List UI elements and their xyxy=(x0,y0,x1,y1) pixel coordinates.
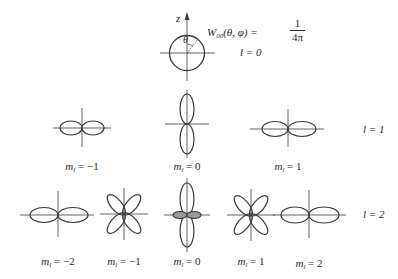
orbital-l2-m-1 xyxy=(100,188,148,240)
orbital-l2-m1 xyxy=(227,189,275,241)
formula-args: (θ, φ) = xyxy=(223,26,258,38)
formula-symbol: W xyxy=(207,26,216,38)
m-label-l2-m1: ml = 1 xyxy=(237,255,264,269)
orbital-l2-m2 xyxy=(273,190,346,238)
z-axis-arrow-icon xyxy=(185,12,190,20)
orbital-l1-m0 xyxy=(165,90,209,158)
l2-label: l = 2 xyxy=(363,208,384,220)
m-label-l2-m0: ml = 0 xyxy=(173,255,200,269)
fraction-numerator: 1 xyxy=(295,18,301,29)
l0-label: l = 0 xyxy=(240,46,261,58)
orbital-diagram xyxy=(0,0,398,279)
formula-fraction: 1 4π xyxy=(290,18,305,43)
m-label-l1-m1: ml = 1 xyxy=(274,160,301,174)
z-axis-label: z xyxy=(176,12,180,24)
m-label-l2-m-2: ml = −2 xyxy=(41,255,74,269)
fraction-denominator: 4π xyxy=(292,32,303,43)
orbital-l2-m0 xyxy=(164,178,210,252)
m-label-l1-m-1: ml = −1 xyxy=(65,160,98,174)
formula-w00: W00(θ, φ) = xyxy=(207,26,258,40)
theta-label: θ xyxy=(183,34,188,45)
orbital-l2-m-2 xyxy=(20,191,94,237)
m-label-l1-m0: ml = 0 xyxy=(173,160,200,174)
m-label-l2-m-1: ml = −1 xyxy=(107,255,140,269)
orbital-l1-m-1 xyxy=(53,108,111,147)
orbital-l1-m1 xyxy=(250,109,324,147)
m-label-l2-m2: ml = 2 xyxy=(295,257,322,271)
s-orbital-sphere xyxy=(160,12,215,81)
l1-label: l = 1 xyxy=(363,123,384,135)
